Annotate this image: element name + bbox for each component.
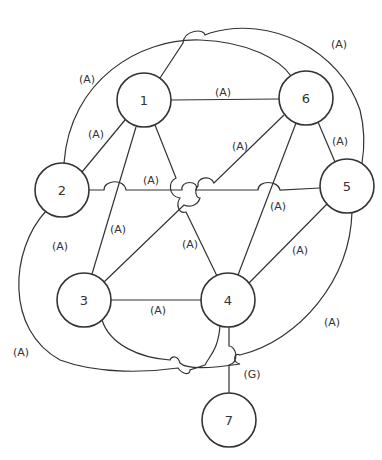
node-4: 4	[201, 273, 255, 327]
node-6: 6	[279, 71, 333, 125]
network-diagram: (A) (A) (A) (A) (A) (A) (A) (A) (A) (A) …	[0, 0, 382, 460]
edge-label-3-4: (A)	[150, 304, 166, 317]
node-2-label: 2	[58, 183, 66, 198]
edge-2-6	[64, 40, 291, 163]
node-3: 3	[57, 273, 111, 327]
edge-label-1-3: (A)	[110, 223, 126, 236]
node-3-label: 3	[80, 293, 88, 308]
edge-4-7	[229, 327, 236, 393]
edge-label-1-6: (A)	[215, 86, 231, 99]
edge-label-2-4: (A)	[13, 346, 29, 359]
edge-1-6	[171, 99, 279, 100]
node-2: 2	[35, 163, 89, 217]
edge-label-5-3: (A)	[324, 316, 340, 329]
edge-label-1-2: (A)	[88, 128, 104, 141]
edge-1-4	[155, 125, 217, 276]
node-5-label: 5	[343, 179, 351, 194]
edge-label-2-5: (A)	[143, 174, 159, 187]
edge-label-4-7: (G)	[243, 368, 260, 381]
node-5: 5	[320, 159, 374, 213]
edge-label-2-3: (A)	[52, 240, 68, 253]
edge-label-2-6: (A)	[79, 73, 95, 86]
edge-label-6-3: (A)	[232, 140, 248, 153]
node-6-label: 6	[302, 91, 310, 106]
edge-label-6-5: (A)	[332, 135, 348, 148]
edge-6-3	[104, 115, 284, 282]
node-1: 1	[117, 73, 171, 127]
edge-2-5	[89, 182, 320, 190]
edge-label-6-4: (A)	[270, 200, 286, 213]
edge-1-3	[92, 127, 136, 274]
node-7: 7	[202, 393, 256, 447]
node-7-label: 7	[225, 413, 233, 428]
node-1-label: 1	[140, 93, 148, 108]
node-4-label: 4	[224, 293, 232, 308]
edge-label-5-4: (A)	[292, 244, 308, 257]
edge-label-1-5: (A)	[331, 38, 347, 51]
edge-label-1-4: (A)	[182, 238, 198, 251]
